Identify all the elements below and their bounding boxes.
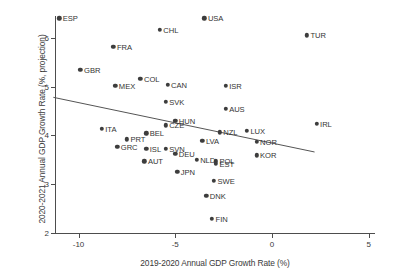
data-point-label: GRC <box>121 142 138 151</box>
data-point-label: USA <box>208 14 223 23</box>
data-point-label: DEU <box>179 149 195 158</box>
data-point-label: CZE <box>169 121 184 130</box>
data-point-label: KOR <box>260 151 276 160</box>
data-point-label: BEL <box>150 129 164 138</box>
data-point-label: AUT <box>148 157 163 166</box>
data-point-label: LVA <box>206 136 219 145</box>
data-point-label: COL <box>144 74 159 83</box>
scatter-chart-figure: 2020-2021 Annual GDP Growth Rate (%, pro… <box>0 0 403 278</box>
data-point-label: LUX <box>250 126 265 135</box>
data-point-label: FRA <box>117 42 132 51</box>
data-point-label: EST <box>219 159 234 168</box>
data-point-label: ISR <box>229 81 242 90</box>
data-point-label: SWE <box>218 176 235 185</box>
data-point-label: JPN <box>181 168 195 177</box>
data-point-label: ISL <box>150 145 161 154</box>
data-point-label: ESP <box>63 14 78 23</box>
data-point-label: CAN <box>171 80 187 89</box>
data-point-label: ITA <box>105 124 116 133</box>
data-point-label: TUR <box>310 31 325 40</box>
data-point-label: IRL <box>320 119 332 128</box>
data-point-label: MEX <box>119 81 135 90</box>
data-point-label: AUS <box>229 105 244 114</box>
data-point-label: NOR <box>260 137 277 146</box>
data-point-label: DNK <box>210 191 226 200</box>
plot-area: -10-50523456 ESPUSACHLTURFRAGBRCOLMEXCAN… <box>0 0 403 278</box>
data-point-label: SVK <box>169 97 184 106</box>
data-point-label: CHL <box>163 25 178 34</box>
data-point-label: FIN <box>216 214 228 223</box>
data-point-label: NZL <box>223 128 237 137</box>
data-point-label: GBR <box>84 65 100 74</box>
